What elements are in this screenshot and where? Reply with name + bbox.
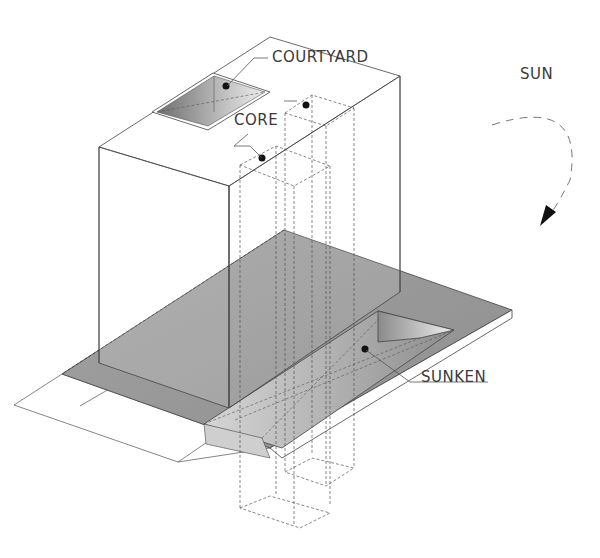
courtyard-label: COURTYARD <box>272 48 369 66</box>
axonometric-diagram: COURTYARD CORE SUN SUNKEN <box>0 0 600 558</box>
courtyard-marker <box>223 83 230 90</box>
core-marker-2 <box>303 102 310 109</box>
sunken-label: SUNKEN <box>421 368 486 386</box>
sun-label: SUN <box>520 65 553 83</box>
core-label: CORE <box>234 111 278 129</box>
sun-path-arrow <box>492 117 572 226</box>
diagram-drawing <box>0 0 600 558</box>
